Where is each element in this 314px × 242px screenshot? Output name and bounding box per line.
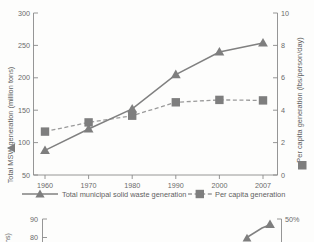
legend-label-per-capita: Per capita generation [215,190,285,199]
data-point-per-capita-1990 [172,98,180,106]
chart-legend: Total municipal solid waste generation P… [22,190,285,199]
right-tick-label-2: 2 [281,138,285,147]
partial-right-tick-50pct: 50% [285,215,300,224]
right-tick-label-8: 8 [281,41,285,50]
series-per-capita-line [45,100,263,132]
data-point-msw-1960 [40,145,50,154]
right-axis-title: Per capita generation (lbs/person/day) [295,37,304,162]
chart-figure: 50 100 150 200 250 300 Total MSW generat… [0,0,314,242]
left-tick-label-250: 250 [18,41,30,50]
left-tick-label-100: 100 [18,138,30,147]
x-tick-label-1990: 1990 [168,181,184,190]
left-axis: 50 100 150 200 250 300 Total MSW generat… [6,9,38,184]
partial-data-point-triangle [265,220,275,229]
right-tick-label-0: 0 [281,171,285,180]
left-tick-label-150: 150 [18,106,30,115]
x-axis: 1960 1970 1980 1990 2000 2007 [34,175,278,190]
partial-left-axis-label: ns) [3,233,12,242]
data-point-per-capita-2000 [215,96,223,104]
left-axis-title: Total MSW generation (million tons) [6,67,15,184]
x-tick-label-1970: 1970 [81,181,97,190]
partial-left-tick-90: 90 [30,215,38,224]
left-tick-label-200: 200 [18,73,30,82]
series-total-msw-generation [40,38,268,154]
x-tick-label-1980: 1980 [124,181,140,190]
data-point-msw-1980 [127,104,137,113]
series-total-msw-line [45,43,263,150]
data-point-per-capita-1980 [128,112,136,120]
data-point-msw-2007 [258,38,268,47]
series-per-capita-generation [41,96,267,136]
data-point-msw-1990 [171,70,181,79]
x-tick-label-2000: 2000 [211,181,227,190]
left-tick-label-300: 300 [18,9,30,18]
left-tick-label-50: 50 [22,171,30,180]
right-tick-label-10: 10 [281,9,289,18]
legend-square-icon [196,190,204,198]
data-point-per-capita-2007 [259,96,267,104]
x-tick-label-2007: 2007 [255,181,271,190]
data-point-per-capita-1960 [41,127,49,135]
right-axis: 0 2 4 6 8 10 Per capita generation (lbs/… [273,9,307,180]
right-tick-label-4: 4 [281,106,285,115]
x-tick-label-1960: 1960 [37,181,53,190]
right-axis-square-icon [298,161,307,170]
right-tick-label-6: 6 [281,73,285,82]
partial-left-tick-80: 80 [30,233,38,242]
legend-label-msw: Total municipal solid waste generation [62,190,186,199]
partial-chart-below: ns) 90 80 50% [3,215,300,242]
chart-svg: 50 100 150 200 250 300 Total MSW generat… [0,0,314,242]
